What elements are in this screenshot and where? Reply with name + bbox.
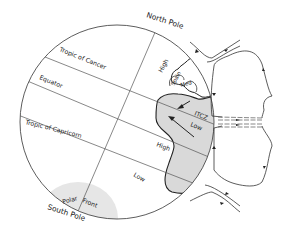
high-pressure-north-label: High [157, 58, 171, 74]
low-pressure-south-label: Low [133, 171, 147, 183]
equator-label: Equator [38, 73, 64, 90]
tropic-of-cancer-label: Tropic of Cancer [57, 45, 108, 72]
high-pressure-south-label: High [155, 140, 171, 153]
global-circulation-diagram: Tropic of Cancer Equator Tropic of Capri… [0, 0, 286, 234]
north-pole-label: North Pole [145, 10, 185, 31]
tropic-of-capricorn-label: Tropic of Capricorn [24, 118, 83, 140]
